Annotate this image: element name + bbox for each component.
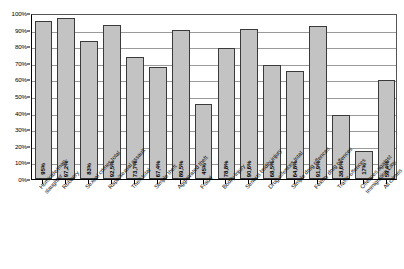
bar-chart: 0%10%20%30%40%50%60%70%80%90%100% 95%97,…: [0, 0, 404, 269]
bar-slot: 78,8%: [218, 15, 236, 179]
y-axis-tick-mark: [27, 30, 30, 31]
bar: 67,4%: [149, 67, 167, 179]
y-axis-tick-mark: [27, 63, 30, 64]
bar-value-label: 67,4%: [155, 161, 161, 178]
bar: 78,8%: [218, 48, 236, 179]
bar-slot: 95%: [35, 15, 53, 179]
y-axis-tick-mark: [27, 146, 30, 147]
y-axis-tick-mark: [27, 14, 30, 15]
y-axis-tick-label: 90%: [15, 27, 27, 33]
bar: 97,2%: [57, 18, 75, 179]
y-axis-tick-label: 70%: [15, 61, 27, 67]
y-axis-tick-label: 30%: [15, 127, 27, 133]
bar-slot: 90,6%: [240, 15, 258, 179]
y-axis-tick-label: 10%: [15, 160, 27, 166]
bar-value-label: 90,6%: [246, 161, 252, 178]
bar: 90,6%: [240, 29, 258, 179]
x-axis: Homicide/man-slaughterRobberySexual crim…: [31, 186, 404, 269]
y-axis-tick-mark: [27, 180, 30, 181]
bar-slot: 17%: [355, 15, 373, 179]
bar-slot: 83%: [80, 15, 98, 179]
bar-slot: 67,4%: [149, 15, 167, 179]
bar-value-label: 89,5%: [178, 161, 184, 178]
y-axis: 0%10%20%30%40%50%60%70%80%90%100%: [0, 14, 30, 180]
y-axis-tick-label: 50%: [15, 94, 27, 100]
bar-value-label: 78,8%: [223, 161, 229, 178]
y-axis-tick-mark: [27, 80, 30, 81]
bar: 83%: [80, 41, 98, 179]
y-axis-tick-mark: [27, 113, 30, 114]
bar: 89,5%: [172, 30, 190, 179]
bar-slot: 89,5%: [172, 15, 190, 179]
y-axis-tick-label: 60%: [15, 77, 27, 83]
bar-value-label: 95%: [40, 163, 46, 175]
y-axis-tick-mark: [27, 163, 30, 164]
bar-slot: 97,2%: [57, 15, 75, 179]
bar-value-label: 83%: [86, 163, 92, 175]
bar: 95%: [35, 21, 53, 179]
y-axis-tick-label: 80%: [15, 44, 27, 50]
y-axis-tick-mark: [27, 47, 30, 48]
y-axis-tick-label: 20%: [15, 144, 27, 150]
y-axis-tick-label: 0%: [18, 177, 27, 183]
y-axis-tick-mark: [27, 97, 30, 98]
y-axis-tick-label: 40%: [15, 110, 27, 116]
y-axis-tick-label: 100%: [12, 11, 27, 17]
y-axis-tick-mark: [27, 130, 30, 131]
